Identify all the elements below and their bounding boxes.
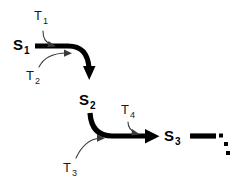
ellipsis-dot-3 (226, 151, 230, 155)
state-s3-subscript: 3 (175, 136, 181, 147)
state-label-s2: S 2 (79, 91, 96, 111)
transition-label-t3: T 3 (63, 160, 77, 178)
state-label-s1: S 1 (13, 36, 30, 56)
state-s1-subscript: 1 (24, 45, 30, 56)
transition-label-t2: T 2 (26, 68, 40, 86)
state-transition-diagram: S 1 S 2 S 3 T 1 T 2 T 3 T 4 (0, 0, 236, 180)
transition-t3-subscript: 3 (72, 168, 77, 178)
transition-label-t1: T 1 (34, 8, 48, 26)
edge-s2-to-s3-arrowhead (145, 129, 160, 143)
pointer-t4-arrowhead (132, 129, 141, 136)
edge-s1-to-s2-stroke (35, 46, 89, 68)
edge-s1-to-s2-arrowhead (83, 66, 96, 80)
state-s3-base: S (164, 127, 174, 144)
pointer-t2 (39, 50, 72, 68)
state-label-s3: S 3 (164, 127, 181, 147)
state-s1-base: S (13, 36, 23, 53)
transition-t3-base: T (63, 160, 71, 175)
pointer-t3-stroke (76, 138, 100, 158)
transition-t4-subscript: 4 (130, 110, 135, 120)
transition-t1-base: T (34, 8, 42, 23)
ellipsis-dot-1 (219, 134, 223, 138)
transition-t2-base: T (26, 68, 34, 83)
transition-t2-subscript: 2 (35, 76, 40, 86)
pointer-t3 (76, 135, 105, 159)
transition-t1-subscript: 1 (43, 16, 48, 26)
transition-label-t4: T 4 (121, 102, 135, 120)
continuation-ellipsis (219, 134, 230, 156)
transition-t4-base: T (121, 102, 129, 117)
state-s2-base: S (79, 91, 89, 108)
ellipsis-dot-2 (224, 142, 228, 146)
pointer-t2-stroke (39, 53, 67, 67)
pointer-t2-arrowhead (64, 50, 72, 57)
edge-s2-to-s3-stroke (90, 113, 147, 136)
diagram-canvas: S 1 S 2 S 3 T 1 T 2 T 3 T 4 (0, 0, 236, 180)
state-s2-subscript: 2 (90, 100, 96, 111)
